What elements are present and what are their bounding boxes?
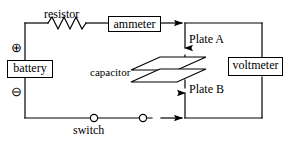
battery-negative-terminal-icon: ⊖ bbox=[11, 85, 22, 98]
capacitor-label: capacitor bbox=[90, 67, 130, 78]
circuit-diagram: resistor ammeter ⊕ battery ⊖ voltmeter c… bbox=[0, 0, 284, 141]
plate-a-label: Plate A bbox=[189, 33, 224, 45]
battery-component: battery bbox=[7, 60, 53, 78]
battery-positive-terminal-icon: ⊕ bbox=[11, 41, 22, 54]
capacitor-plate-b bbox=[131, 69, 206, 82]
switch-contact-right bbox=[139, 114, 146, 121]
capacitor-plate-a bbox=[131, 57, 206, 70]
ammeter-component: ammeter bbox=[108, 16, 161, 32]
resistor-label: resistor bbox=[44, 8, 79, 20]
switch-contact-left bbox=[90, 114, 97, 121]
voltmeter-component: voltmeter bbox=[228, 57, 283, 76]
plate-b-label: Plate B bbox=[189, 83, 224, 95]
switch-label: switch bbox=[73, 124, 104, 136]
